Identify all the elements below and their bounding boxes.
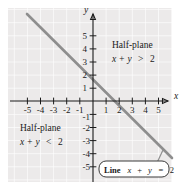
x-tick-label: -4: [37, 105, 45, 115]
y-tick-label: -1: [83, 112, 91, 122]
callout-rhs-var: y: [147, 165, 152, 175]
callout-plus: +: [137, 165, 142, 175]
y-tick-label: -2: [83, 123, 91, 133]
y-tick-label: 3: [83, 57, 88, 67]
callout-word: Line: [104, 165, 121, 175]
x-tick-label: -3: [50, 105, 58, 115]
y-tick-label: -3: [83, 136, 91, 146]
x-tick-label: 5: [156, 105, 161, 115]
coordinate-plane-svg: x y -5 -4 -3 -2 -1 1 2 3 4 5 5 4 3 2 1 -…: [0, 0, 184, 191]
graph-figure: x y -5 -4 -3 -2 -1 1 2 3 4 5 5 4 3 2 1 -…: [0, 0, 184, 191]
y-tick-label: 2: [83, 70, 88, 80]
y-tick-label: 4: [83, 44, 88, 54]
y-tick-label: 1: [83, 83, 88, 93]
lower-ineq-rhs: 2: [58, 137, 63, 147]
x-tick-label: 4: [143, 105, 148, 115]
x-tick-label: -5: [24, 105, 32, 115]
plot-background: [8, 8, 172, 182]
callout-value: 2: [170, 165, 174, 175]
upper-ineq-lhs: x + y: [111, 54, 132, 64]
x-tick-label: 3: [130, 105, 135, 115]
callout-equals: =: [158, 165, 163, 175]
callout-lhs-var: x: [127, 165, 132, 175]
x-tick-label: 1: [104, 105, 109, 115]
y-tick-label: 5: [83, 31, 88, 41]
x-axis-label: x: [173, 91, 179, 101]
callout-line-equation: Line x + y = 2: [99, 159, 174, 178]
y-tick-label: -5: [83, 162, 91, 172]
upper-ineq-rhs: 2: [150, 54, 155, 64]
upper-ineq-relation: >: [138, 54, 143, 64]
x-tick-label: 2: [117, 105, 122, 115]
y-tick-label: -4: [83, 149, 91, 159]
x-tick-label: -2: [63, 105, 71, 115]
lower-ineq-lhs: x + y: [19, 137, 40, 147]
y-axis-label: y: [83, 5, 89, 15]
lower-ineq-relation: <: [46, 137, 51, 147]
